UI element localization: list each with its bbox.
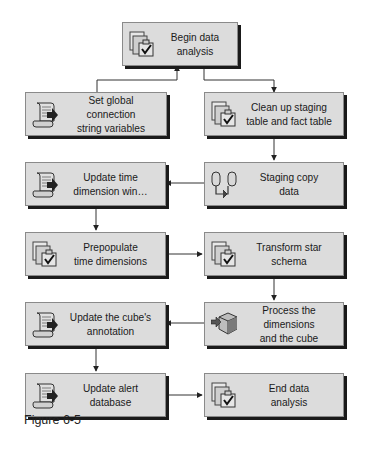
- node-label: Update alert database: [66, 374, 155, 416]
- task-check-icon: [32, 240, 58, 268]
- edge-begin-to-cleanup: [204, 66, 274, 92]
- node-transform-star-schema[interactable]: Transform star schema: [204, 232, 344, 276]
- node-begin-data-analysis[interactable]: Begin data analysis: [122, 22, 238, 66]
- node-label: End data analysis: [245, 374, 333, 416]
- node-update-alert-database[interactable]: Update alert database: [25, 373, 166, 417]
- node-label: Staging copy data: [245, 163, 333, 205]
- node-label: Transform star schema: [245, 233, 333, 275]
- node-update-cube-annotation[interactable]: Update the cube's annotation: [25, 302, 166, 346]
- script-icon: [32, 381, 58, 409]
- task-check-icon: [211, 100, 237, 128]
- node-label: Prepopulate time dimensions: [66, 233, 155, 275]
- cube-icon: [211, 310, 237, 338]
- node-end-data-analysis[interactable]: End data analysis: [204, 373, 344, 417]
- flowchart-canvas: Begin data analysis Set global connectio…: [0, 0, 366, 453]
- node-prepopulate-time-dimensions[interactable]: Prepopulate time dimensions: [25, 232, 166, 276]
- node-clean-up-staging[interactable]: Clean up staging table and fact table: [204, 92, 344, 136]
- edge-set-global-to-begin: [97, 66, 177, 93]
- node-label: Begin data analysis: [162, 23, 229, 65]
- node-staging-copy-data[interactable]: Staging copy data: [204, 162, 344, 206]
- node-label: Process the dimensions and the cube: [245, 303, 333, 345]
- task-check-icon: [129, 30, 155, 58]
- script-icon: [32, 100, 58, 128]
- script-icon: [32, 170, 58, 198]
- script-icon: [32, 310, 58, 338]
- task-check-icon: [211, 381, 237, 409]
- task-check-icon: [211, 240, 237, 268]
- node-label: Set global connection string variables: [66, 93, 156, 135]
- node-label: Update time dimension win…: [66, 163, 155, 205]
- node-label: Clean up staging table and fact table: [245, 93, 333, 135]
- node-set-global-connection[interactable]: Set global connection string variables: [25, 92, 167, 136]
- figure-caption: Figure 6-5: [24, 413, 81, 427]
- data-flow-icon: [211, 170, 237, 198]
- node-update-time-dimension[interactable]: Update time dimension win…: [25, 162, 166, 206]
- node-process-dimensions-cube[interactable]: Process the dimensions and the cube: [204, 302, 344, 346]
- node-label: Update the cube's annotation: [66, 303, 155, 345]
